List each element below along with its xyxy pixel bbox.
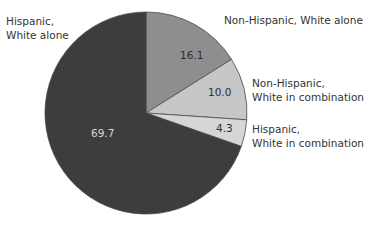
label-line: Non-Hispanic, <box>252 77 325 89</box>
pie-chart: 16.1 10.0 4.3 69.7 Hispanic, White alone… <box>0 0 368 228</box>
category-label-hispanic-white-alone: Hispanic, White alone <box>6 15 69 41</box>
label-line: Hispanic, <box>6 15 54 27</box>
label-line: White in combination <box>252 91 364 103</box>
category-label-hispanic-white-combo: Hispanic, White in combination <box>252 123 364 149</box>
value-label-hispanic-white-combo: 4.3 <box>216 122 233 134</box>
value-label-nonhispanic-white-alone: 16.1 <box>180 49 203 61</box>
label-line: Hispanic, <box>252 123 300 135</box>
label-line: White alone <box>6 29 69 41</box>
value-label-nonhispanic-white-combo: 10.0 <box>208 86 231 98</box>
pie-slices <box>45 12 247 214</box>
category-label-nonhispanic-white-combo: Non-Hispanic, White in combination <box>252 77 364 103</box>
value-label-hispanic-white-alone: 69.7 <box>91 127 114 139</box>
label-line: Non-Hispanic, White alone <box>224 14 363 26</box>
label-line: White in combination <box>252 137 364 149</box>
category-label-nonhispanic-white-alone: Non-Hispanic, White alone <box>224 14 363 26</box>
